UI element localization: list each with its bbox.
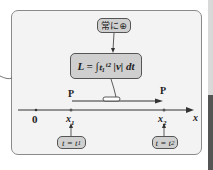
distance-equation-box: L = ∫ₜ₁ᵗ² |v| dt (70, 53, 142, 79)
time-t2-box: t = t2 (152, 136, 178, 149)
point-p-start: P (68, 88, 74, 99)
point-p-end: P (160, 85, 166, 96)
axis-x-label: x (193, 112, 198, 123)
origin-label: 0 (32, 113, 38, 125)
x1-label: x1 (66, 113, 75, 127)
always-positive-note: 常に⊕ (97, 18, 131, 33)
x2-label: x2 (158, 113, 167, 127)
time-t1-box: t = t1 (57, 136, 86, 149)
note-text: 常に⊕ (101, 19, 127, 32)
equation-text: L = ∫ₜ₁ᵗ² |v| dt (77, 60, 134, 73)
